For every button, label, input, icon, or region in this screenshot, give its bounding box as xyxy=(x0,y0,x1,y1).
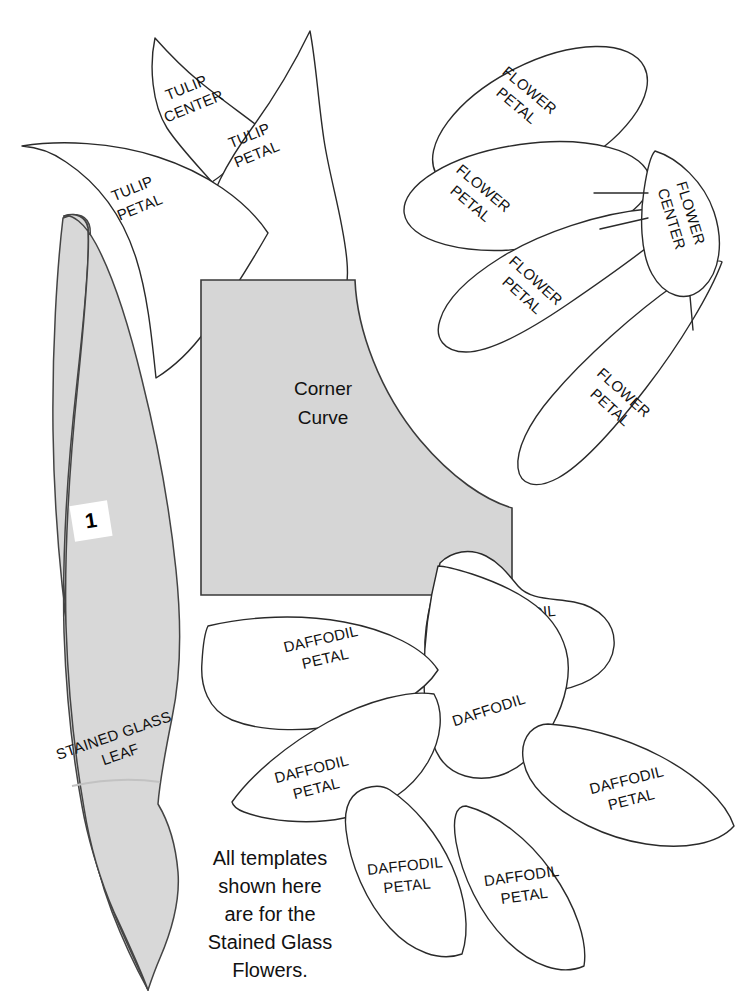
note-line-4: Stained Glass xyxy=(208,931,333,953)
note-line-3: are for the xyxy=(224,903,315,925)
note-line-2: shown here xyxy=(218,875,321,897)
note-line-5: Flowers. xyxy=(232,959,308,981)
note-line-1: All templates xyxy=(213,847,328,869)
corner-curve-label-line1: Corner xyxy=(294,378,353,399)
note-block: All templates shown here are for the Sta… xyxy=(208,847,333,981)
corner-curve-label-line2: Curve xyxy=(298,407,349,428)
flower-group: FLOWER PETAL FLOWER PETAL FLOWER PETAL F… xyxy=(397,16,722,484)
template-sheet: TULIP CENTER TULIP PETAL TULIP PETAL FLO… xyxy=(0,0,738,998)
template-canvas: TULIP CENTER TULIP PETAL TULIP PETAL FLO… xyxy=(0,0,738,998)
